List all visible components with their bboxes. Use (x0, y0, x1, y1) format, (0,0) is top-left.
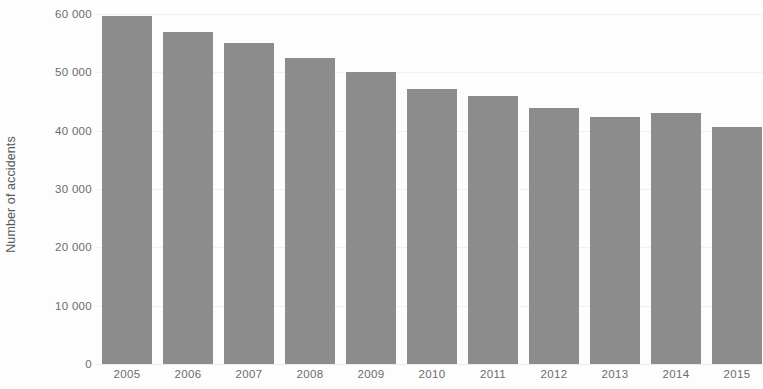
x-axis-tick-label: 2006 (163, 368, 213, 380)
x-axis-tick-label: 2008 (285, 368, 335, 380)
gridline (96, 364, 763, 365)
bar (346, 72, 396, 364)
bar (163, 32, 213, 365)
y-axis-tick-label: 0 (18, 358, 92, 370)
x-axis-tick-label: 2014 (651, 368, 701, 380)
bar (285, 58, 335, 364)
bar-chart: Number of accidents 60 00050 00040 00030… (0, 0, 763, 389)
x-axis-tick-label: 2005 (102, 368, 152, 380)
bar (712, 127, 762, 364)
bar (102, 16, 152, 364)
bar (224, 43, 274, 364)
y-axis-tick-label: 40 000 (18, 125, 92, 137)
bar (468, 96, 518, 364)
plot-area (96, 0, 763, 364)
bar (651, 113, 701, 364)
bars-group (96, 0, 763, 364)
y-axis-tick-label: 20 000 (18, 241, 92, 253)
x-axis-tick-label: 2007 (224, 368, 274, 380)
x-axis-tick-label: 2011 (468, 368, 518, 380)
bar (590, 117, 640, 364)
x-axis-tick-label: 2013 (590, 368, 640, 380)
y-axis-tick-label: 10 000 (18, 300, 92, 312)
y-axis-tick-label: 60 000 (18, 8, 92, 20)
x-axis-tick-labels: 2005200620072008200920102011201220132014… (96, 366, 763, 389)
x-axis-tick-label: 2010 (407, 368, 457, 380)
x-axis-tick-label: 2012 (529, 368, 579, 380)
x-axis-tick-label: 2015 (712, 368, 762, 380)
y-axis-tick-label: 50 000 (18, 66, 92, 78)
y-axis-tick-label: 30 000 (18, 183, 92, 195)
bar (407, 89, 457, 364)
y-axis-tick-labels: 60 00050 00040 00030 00020 00010 0000 (18, 0, 92, 389)
bar (529, 108, 579, 364)
x-axis-tick-label: 2009 (346, 368, 396, 380)
